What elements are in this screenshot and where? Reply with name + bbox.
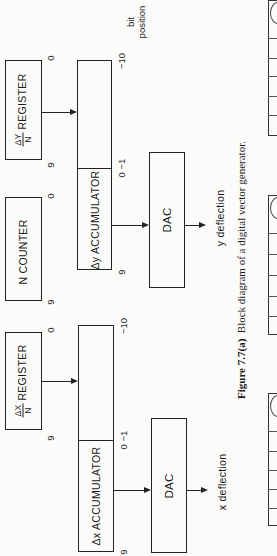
arrowhead-icon — [70, 109, 77, 115]
dy-register-to-accumulator-arrow — [42, 112, 72, 113]
dx-accumulator-bit-mid: 0 −1 — [118, 431, 129, 450]
dy-accumulator-label: Δy ACCUMULATOR — [89, 171, 101, 270]
next-figure-row-line — [268, 275, 277, 276]
next-figure-row-line — [268, 451, 277, 452]
arrowhead-icon — [199, 222, 206, 228]
arrowhead-icon — [201, 487, 208, 493]
figure-caption: Figure 7.7(a) Block diagram of a digital… — [235, 141, 247, 399]
next-figure-row-line — [268, 38, 277, 39]
arrowhead-icon — [144, 487, 151, 493]
next-figure-row-line — [268, 96, 277, 97]
arrowhead-icon — [142, 222, 149, 228]
next-figure-row-line — [268, 58, 277, 59]
bit-position-label: bit position — [125, 6, 147, 39]
dx-n-register-label: ΔXNREGISTER — [14, 344, 33, 417]
next-figure-row-line — [268, 431, 277, 432]
n-counter-label: N COUNTER — [17, 219, 29, 284]
next-figure-row-line — [268, 254, 277, 255]
next-figure-row-line — [268, 508, 277, 509]
dx-accumulator-label: Δx ACCUMULATOR — [90, 447, 102, 546]
y-deflection-label: y deflection — [214, 190, 226, 247]
dx-accumulator-binary-point — [78, 440, 114, 441]
dx-register-bit-9: 9 — [45, 435, 56, 440]
dx-accumulator-bit-low: −10 — [118, 318, 129, 334]
next-figure-row-line — [268, 233, 277, 234]
x-dac-label: DAC — [163, 473, 175, 498]
dy-accumulator-bit-high: 9 — [116, 269, 127, 274]
dx-n-fraction: ΔXN — [14, 404, 33, 418]
figure-caption-text: Block diagram of a digital vector genera… — [235, 141, 247, 333]
next-figure-row-line — [268, 296, 277, 297]
next-figure-row-line — [268, 489, 277, 490]
y-dac-output-arrow — [185, 225, 200, 226]
dx-register-bit-0: 0 — [45, 327, 56, 332]
x-dac-output-arrow — [187, 490, 202, 491]
dy-register-bit-0: 0 — [45, 55, 56, 60]
n-counter-bit-9: 9 — [45, 299, 56, 304]
x-deflection-label: x deflection — [216, 454, 228, 511]
next-figure-row-line — [268, 316, 277, 317]
next-figure-row-line — [268, 115, 277, 116]
dy-accumulator-bit-mid: 0 −1 — [116, 159, 127, 178]
dy-accumulator-bit-low: −10 — [116, 53, 127, 69]
dy-n-register-label: ΔYNREGISTER — [14, 73, 33, 146]
next-figure-row-line — [268, 470, 277, 471]
dy-accumulator-binary-point — [77, 168, 112, 169]
dx-register-to-accumulator-arrow — [42, 381, 73, 382]
dx-accumulator-bit-high: 9 — [118, 549, 129, 554]
n-counter-bit-0: 0 — [45, 193, 56, 198]
arrowhead-icon — [71, 378, 78, 384]
dy-n-fraction: ΔYN — [14, 133, 33, 147]
figure-number: Figure 7.7(a) — [235, 339, 247, 399]
y-dac-label: DAC — [161, 207, 173, 232]
next-figure-row-line — [268, 76, 277, 77]
dx-accumulator-to-dac-arrow — [114, 490, 145, 491]
dy-register-bit-9: 9 — [45, 162, 56, 167]
dy-accumulator-to-dac-arrow — [112, 225, 143, 226]
